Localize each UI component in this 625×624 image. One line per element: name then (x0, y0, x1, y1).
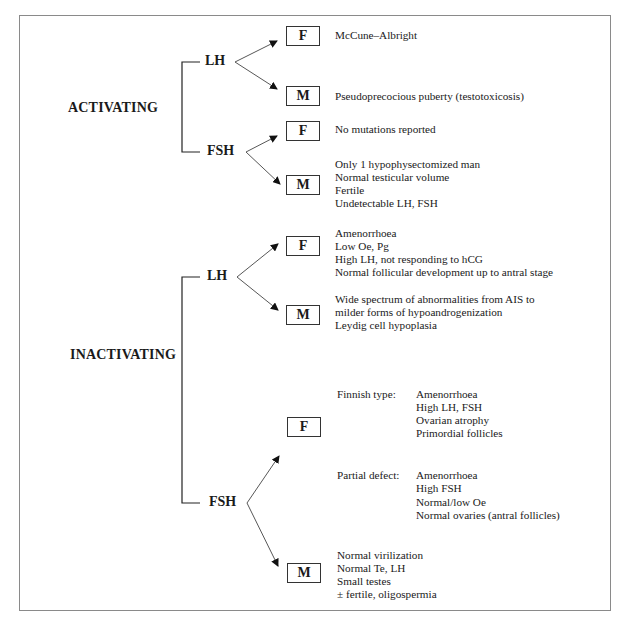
description-block: No mutations reported (335, 123, 436, 136)
description-line: Amenorrhoea (416, 388, 503, 401)
sex-box-male: M (287, 563, 321, 583)
subtype-label-finnish: Finnish type: (337, 388, 396, 401)
description-block: Wide spectrum of abnormalities from AIS … (335, 293, 535, 332)
sex-box-female: F (286, 26, 320, 46)
sex-box-female: F (286, 236, 320, 256)
description-block: Amenorrhoea High FSH Normal/low Oe Norma… (416, 469, 560, 522)
description-block: McCune–Albright (335, 29, 417, 42)
description-line: Normal virilization (337, 549, 437, 562)
description-line: milder forms of hypoandrogenization (335, 306, 535, 319)
description-line: Normal Te, LH (337, 562, 437, 575)
description-line: Small testes (337, 575, 437, 588)
description-line: High LH, not responding to hCG (335, 253, 553, 266)
description-line: High FSH (416, 482, 560, 495)
description-line: Fertile (335, 184, 480, 197)
description-line: Wide spectrum of abnormalities from AIS … (335, 293, 535, 306)
description-block: Pseudoprecocious puberty (testotoxicosis… (335, 90, 524, 103)
inactivating-bracket (182, 277, 200, 503)
description-block: Normal virilization Normal Te, LH Small … (337, 549, 437, 601)
hormone-label-lh-inactivating: LH (207, 268, 227, 284)
description-line: Primordial follicles (416, 427, 503, 440)
description-block: Only 1 hypophysectomized man Normal test… (335, 158, 480, 210)
description-line: Ovarian atrophy (416, 414, 503, 427)
sex-box-male: M (286, 175, 320, 195)
activating-bracket (182, 62, 200, 152)
description-line: Amenorrhoea (416, 469, 560, 482)
hormone-label-lh-activating: LH (205, 53, 225, 69)
description-line: Normal ovaries (antral follicles) (416, 509, 560, 522)
sex-box-male: M (286, 86, 320, 106)
description-line: No mutations reported (335, 123, 436, 136)
hormone-label-fsh-inactivating: FSH (209, 494, 236, 510)
description-block: Amenorrhoea Low Oe, Pg High LH, not resp… (335, 227, 553, 279)
section-label-activating: ACTIVATING (68, 100, 158, 116)
description-line: Only 1 hypophysectomized man (335, 158, 480, 171)
description-block: Amenorrhoea High LH, FSH Ovarian atrophy… (416, 388, 503, 440)
subtype-label-partial: Partial defect: (337, 469, 399, 482)
hormone-label-fsh-activating: FSH (207, 143, 234, 159)
description-line: Normal/low Oe (416, 496, 560, 509)
description-line: ± fertile, oligospermia (337, 588, 437, 601)
section-label-inactivating: INACTIVATING (70, 347, 176, 363)
description-line: Pseudoprecocious puberty (testotoxicosis… (335, 90, 524, 103)
sex-box-female: F (286, 121, 320, 141)
description-line: Amenorrhoea (335, 227, 553, 240)
description-line: Low Oe, Pg (335, 240, 553, 253)
description-line: High LH, FSH (416, 401, 503, 414)
description-line: Normal follicular development up to antr… (335, 266, 553, 279)
sex-box-female: F (287, 417, 321, 437)
sex-box-male: M (286, 305, 320, 325)
description-line: Normal testicular volume (335, 171, 480, 184)
description-line: Leydig cell hypoplasia (335, 319, 535, 332)
description-line: McCune–Albright (335, 29, 417, 42)
description-line: Undetectable LH, FSH (335, 197, 480, 210)
